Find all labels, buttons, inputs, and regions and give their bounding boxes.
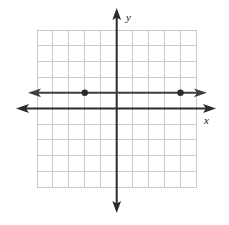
coordinate-plane-svg: y x — [0, 0, 229, 225]
x-axis-label: x — [203, 114, 209, 126]
data-point[interactable] — [82, 90, 88, 96]
y-axis-label: y — [125, 11, 131, 23]
figure-background — [0, 0, 229, 225]
coordinate-plane-figure: y x — [0, 0, 229, 225]
data-point[interactable] — [177, 90, 183, 96]
